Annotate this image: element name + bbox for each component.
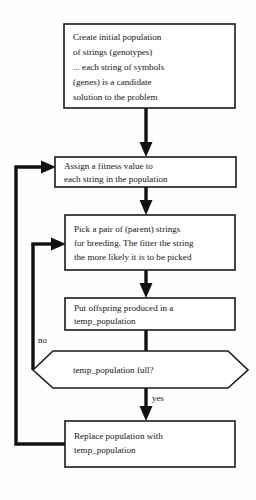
node-put-offspring-line-1: temp_population	[74, 316, 136, 326]
node-assign-fitness-value[interactable]: Assign a fitness value to each string in…	[55, 157, 236, 187]
node-create-initial-population[interactable]: Create initial population of strings (ge…	[64, 24, 235, 108]
node-create-initial-population-line-0: Create initial population	[73, 32, 162, 42]
node-replace-population[interactable]: Replace population with temp_population	[65, 421, 235, 467]
connector-decision-yes-to-replace	[140, 388, 153, 421]
node-create-initial-population-line-3: (genes) is a candidate	[73, 77, 152, 87]
node-pick-parent-strings-line-2: the more likely it is to be picked	[74, 252, 192, 262]
flowchart-canvas: Create initial population of strings (ge…	[0, 0, 256, 500]
node-create-initial-population-line-4: solution to the problem	[73, 92, 158, 102]
node-assign-fitness-value-line-1: each string in the population	[64, 174, 168, 184]
node-temp-population-full-label: temp_population full?	[73, 365, 154, 375]
node-create-initial-population-line-1: of strings (genotypes)	[73, 47, 152, 57]
edge-label-no: no	[38, 335, 47, 345]
node-create-initial-population-line-2: ... each string of symbols	[73, 62, 165, 72]
node-pick-parent-strings[interactable]: Pick a pair of (parent) strings for bree…	[65, 215, 235, 270]
connector-pick-to-offspring	[140, 270, 153, 298]
connector-replace-to-assign-loop	[16, 161, 65, 445]
node-put-offspring[interactable]: Put offspring produced in a temp_populat…	[65, 298, 235, 330]
node-replace-population-line-0: Replace population with	[74, 431, 163, 441]
node-temp-population-full-decision[interactable]: temp_population full?	[33, 351, 248, 388]
node-pick-parent-strings-line-1: for breeding. The fitter the string	[74, 238, 194, 248]
node-pick-parent-strings-line-0: Pick a pair of (parent) strings	[74, 224, 181, 234]
node-assign-fitness-value-line-0: Assign a fitness value to	[64, 161, 153, 171]
node-replace-population-line-1: temp_population	[74, 445, 136, 455]
flowchart-diagram: Create initial population of strings (ge…	[0, 0, 256, 500]
node-put-offspring-line-0: Put offspring produced in a	[74, 303, 173, 313]
edge-label-yes: yes	[152, 393, 164, 403]
connector-decision-no-to-pick	[31, 238, 66, 371]
connector-create-to-assign	[140, 108, 153, 157]
connector-assign-to-pick	[140, 187, 153, 215]
